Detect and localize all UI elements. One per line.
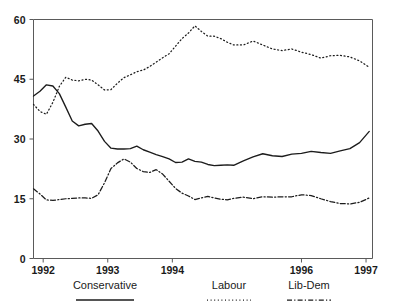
series-line-conservative: [34, 85, 370, 166]
legend-label-lib-dem: Lib-Dem: [288, 279, 330, 291]
series-layer: [34, 26, 370, 204]
series-line-labour: [34, 26, 370, 114]
x-tick-label: 1997: [354, 264, 378, 276]
plot-frame: [34, 20, 373, 259]
y-tick-label: 15: [14, 193, 26, 205]
chart-legend: ConservativeLabourLib-Dem: [73, 279, 331, 300]
x-tick-label: 1992: [32, 264, 56, 276]
legend-label-conservative: Conservative: [73, 279, 137, 291]
y-tick-label: 30: [14, 133, 26, 145]
line-chart: 015304560 19921993199419961997 Conservat…: [0, 0, 393, 307]
y-tick-label: 45: [14, 73, 26, 85]
x-tick-label: 1994: [161, 264, 185, 276]
series-line-lib-dem: [34, 159, 370, 204]
x-tick-label: 1993: [96, 264, 120, 276]
y-tick-label: 0: [20, 253, 26, 265]
chart-container: 015304560 19921993199419961997 Conservat…: [0, 0, 393, 307]
y-tick-label: 60: [14, 14, 26, 26]
plot-box: [34, 20, 373, 259]
legend-label-labour: Labour: [212, 279, 247, 291]
y-axis: 015304560: [14, 14, 34, 265]
x-axis: 19921993199419961997: [32, 259, 378, 276]
x-tick-label: 1996: [290, 264, 314, 276]
